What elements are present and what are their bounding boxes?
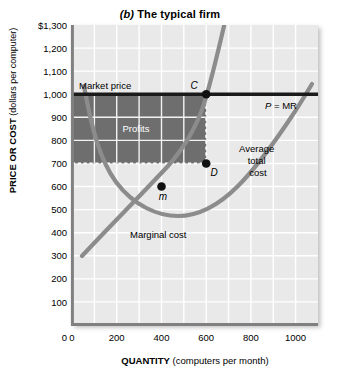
plot-background (72, 25, 318, 325)
y-tick-label: 900 (51, 112, 67, 123)
x-tick-label: 1000 (285, 332, 306, 343)
atc-line-1: Average (239, 143, 274, 154)
y-tick-label: 300 (51, 250, 67, 261)
y-tick-label: 700 (51, 158, 67, 169)
point-d-label: D (210, 167, 217, 178)
y-tick-label: 600 (51, 181, 67, 192)
atc-line-3: cost (249, 167, 267, 178)
market-price-annotation: Market price (79, 80, 131, 91)
figure-container: (b) The typical firm PRICE OR COST (doll… (0, 0, 340, 384)
point-m-marker (157, 182, 166, 191)
point-c-marker (202, 90, 211, 99)
point-c-label: C (190, 80, 198, 91)
point-m-label: m (159, 191, 167, 202)
y-axis-ticks: $1,300 1,200 1,100 1,000 900 800 700 600… (38, 20, 67, 343)
x-tick-label: 600 (198, 332, 214, 343)
point-d-marker (202, 159, 211, 168)
x-tick-label: 800 (243, 332, 259, 343)
y-tick-label: 400 (51, 227, 67, 238)
marginal-cost-annotation: Marginal cost (130, 229, 187, 240)
x-tick-label: 400 (154, 332, 170, 343)
x-tick-label: 200 (109, 332, 125, 343)
y-tick-label: 1,000 (43, 89, 67, 100)
y-tick-label: 500 (51, 204, 67, 215)
x-axis-ticks: 0 200 400 600 800 1000 (69, 332, 306, 343)
x-tick-label: 0 (69, 332, 74, 343)
profits-annotation: Profits (123, 123, 150, 134)
p-equals-mr-annotation: P = MR (265, 100, 297, 111)
y-tick-label: 0 (62, 332, 67, 343)
y-tick-label: $1,300 (38, 20, 67, 31)
chart-plot: C D m Market price P = MR Profits Margin… (0, 0, 340, 384)
y-tick-label: 200 (51, 273, 67, 284)
atc-line-2: total (248, 155, 266, 166)
y-tick-label: 100 (51, 297, 67, 308)
equals-mr-text: = MR (271, 100, 297, 111)
y-tick-label: 800 (51, 135, 67, 146)
y-tick-label: 1,100 (43, 66, 67, 77)
y-tick-label: 1,200 (43, 43, 67, 54)
